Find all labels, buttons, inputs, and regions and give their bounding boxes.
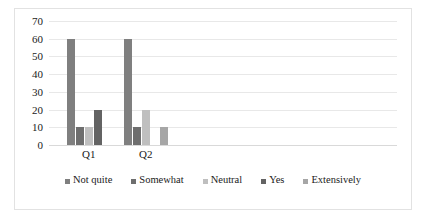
bar-q1-yes[interactable] — [94, 110, 102, 145]
bar-q2-somewhat[interactable] — [133, 127, 141, 145]
x-tick-label-q1: Q1 — [82, 149, 95, 160]
y-tick-label-30: 30 — [32, 86, 43, 97]
legend-swatch-icon — [131, 179, 136, 184]
legend-item-extensively[interactable]: Extensively — [303, 175, 361, 186]
legend-item-somewhat[interactable]: Somewhat — [131, 175, 183, 186]
y-tick-label-70: 70 — [32, 16, 43, 27]
bar-group-q2 — [124, 21, 181, 145]
bar-group-q1 — [67, 21, 124, 145]
legend-swatch-icon — [261, 179, 266, 184]
plot-area: 010203040506070 — [49, 21, 397, 145]
chart-legend: Not quiteSomewhatNeutralYesExtensively — [15, 175, 411, 186]
bar-q2-neutral[interactable] — [142, 110, 150, 145]
legend-item-neutral[interactable]: Neutral — [203, 175, 243, 186]
legend-label: Yes — [269, 175, 284, 186]
gridline-0 — [49, 145, 397, 146]
legend-item-yes[interactable]: Yes — [261, 175, 284, 186]
y-tick-label-40: 40 — [32, 69, 43, 80]
y-tick-label-10: 10 — [32, 122, 43, 133]
x-tick-label-q2: Q2 — [139, 149, 152, 160]
bars-layer — [49, 21, 397, 145]
legend-swatch-icon — [303, 179, 308, 184]
y-tick-label-50: 50 — [32, 51, 43, 62]
legend-swatch-icon — [203, 179, 208, 184]
y-tick-label-60: 60 — [32, 33, 43, 44]
bar-q2-not-quite[interactable] — [124, 39, 132, 145]
bar-q1-not-quite[interactable] — [67, 39, 75, 145]
bar-q2-extensively[interactable] — [160, 127, 168, 145]
y-tick-label-0: 0 — [38, 140, 44, 151]
bar-q1-somewhat[interactable] — [76, 127, 84, 145]
y-tick-label-20: 20 — [32, 104, 43, 115]
chart-figure: 010203040506070 Q1Q2 Not quiteSomewhatNe… — [14, 8, 412, 210]
legend-label: Somewhat — [139, 175, 183, 186]
legend-label: Extensively — [311, 175, 361, 186]
bar-q1-neutral[interactable] — [85, 127, 93, 145]
legend-item-not-quite[interactable]: Not quite — [65, 175, 112, 186]
legend-label: Not quite — [73, 175, 112, 186]
legend-label: Neutral — [211, 175, 243, 186]
x-axis-tick-labels: Q1Q2 — [49, 149, 397, 165]
legend-swatch-icon — [65, 179, 70, 184]
